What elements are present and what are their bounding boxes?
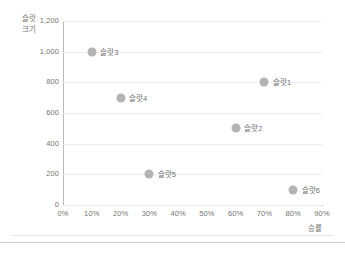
gridline-horizontal (63, 21, 322, 22)
data-point-marker[interactable] (116, 93, 125, 102)
gridline-horizontal (63, 174, 322, 175)
figure-inner-divider (12, 235, 333, 236)
data-point-label: 슬랏3 (100, 47, 118, 56)
data-point-label: 슬랏5 (158, 170, 176, 179)
data-point-label: 슬랏6 (302, 185, 320, 194)
x-tick-label: 90% (302, 209, 342, 218)
y-tick-label: 600 (0, 109, 59, 117)
y-tick-label: 800 (0, 78, 59, 86)
x-axis-title: 승률 (295, 224, 335, 233)
y-tick-label: 0 (0, 201, 59, 209)
data-point-label: 슬랏2 (244, 124, 262, 133)
y-tick-label: 1,000 (0, 48, 59, 56)
data-point-label: 슬랏4 (129, 93, 147, 102)
bubble-chart-figure: 슬랏 크기 승률 02004006008001,0001,200 0%10%20… (0, 0, 345, 253)
y-tick-label: 1,200 (0, 17, 59, 25)
data-point-marker[interactable] (231, 124, 240, 133)
data-point-marker[interactable] (289, 185, 298, 194)
data-point-marker[interactable] (87, 47, 96, 56)
gridline-horizontal (63, 144, 322, 145)
figure-outer-divider (0, 242, 345, 243)
gridline-horizontal (63, 205, 322, 206)
y-tick-label: 400 (0, 140, 59, 148)
gridline-horizontal (63, 113, 322, 114)
data-point-marker[interactable] (145, 170, 154, 179)
plot-area: 슬랏3슬랏1슬랏4슬랏2슬랏5슬랏6 (63, 21, 322, 205)
data-point-marker[interactable] (260, 78, 269, 87)
y-tick-label: 200 (0, 170, 59, 178)
data-point-label: 슬랏1 (273, 78, 291, 87)
